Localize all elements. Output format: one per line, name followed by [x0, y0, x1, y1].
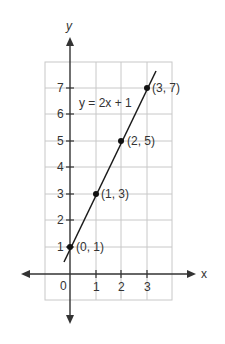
y-tick-label: 4 — [57, 160, 64, 174]
y-tick-label: 5 — [57, 134, 64, 148]
x-axis-label: x — [201, 267, 207, 281]
y-tick-label: 6 — [57, 107, 64, 121]
origin-label: 0 — [60, 279, 67, 293]
data-point — [67, 244, 73, 250]
x-tick-label: 3 — [144, 280, 151, 294]
point-label: (3, 7) — [152, 81, 180, 95]
x-axis-left-arrow-icon — [21, 270, 30, 278]
point-label: (0, 1) — [76, 240, 104, 254]
y-axis-label: y — [65, 19, 73, 33]
y-axis-up-arrow-icon — [66, 37, 74, 46]
data-point — [93, 191, 99, 197]
coordinate-plane: y x 0 7 6 5 4 3 2 1 1 2 3 y = 2x + 1 (0,… — [0, 0, 225, 344]
x-tick-label: 1 — [93, 280, 100, 294]
data-point — [118, 138, 124, 144]
point-label: (2, 5) — [127, 134, 155, 148]
point-label: (1, 3) — [101, 187, 129, 201]
x-tick-label: 2 — [118, 280, 125, 294]
y-tick-label: 7 — [57, 81, 64, 95]
data-point — [144, 85, 150, 91]
y-axis-down-arrow-icon — [66, 315, 74, 324]
y-tick-label: 3 — [57, 187, 64, 201]
y-tick-label: 2 — [57, 213, 64, 227]
equation-label: y = 2x + 1 — [79, 96, 132, 110]
x-axis-right-arrow-icon — [187, 270, 196, 278]
y-tick-label: 1 — [57, 240, 64, 254]
